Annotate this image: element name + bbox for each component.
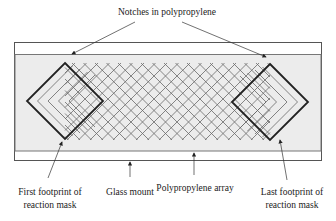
last-footprint-label-line2: reaction mask	[252, 199, 332, 212]
notches-label: Notches in polypropylene	[112, 6, 222, 19]
first-footprint-label-line1: First footprint of	[10, 186, 90, 199]
last-footprint-label-line1: Last footprint of	[252, 186, 332, 199]
first-footprint-label-line2: reaction mask	[10, 199, 90, 212]
polypropylene-array-label: Polypropylene array	[155, 182, 235, 195]
glass-mount-label: Glass mount	[100, 186, 160, 199]
